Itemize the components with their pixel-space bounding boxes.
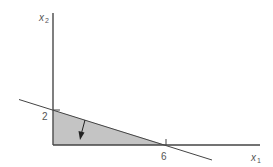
y-intercept-label: 2 <box>42 112 48 122</box>
x2-label-subscript: 2 <box>45 17 49 24</box>
constraint-line <box>19 100 212 161</box>
x2-label-main: x <box>39 12 44 23</box>
x1-label-subscript: 1 <box>257 157 261 164</box>
x-intercept-label: 6 <box>161 152 167 162</box>
x1-label-main: x <box>251 152 256 163</box>
x1-axis-label: x1 <box>251 153 261 166</box>
x2-axis-label: x2 <box>39 13 49 26</box>
